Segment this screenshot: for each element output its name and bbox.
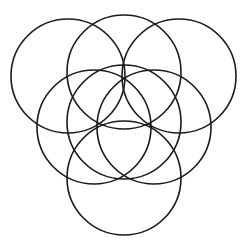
circles-figure: Seven overlapping circles rosette A symm… bbox=[0, 0, 247, 247]
